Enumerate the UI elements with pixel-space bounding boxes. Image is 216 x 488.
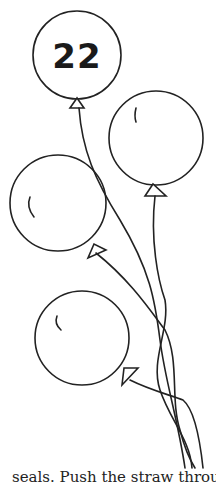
balloon-left	[10, 155, 106, 251]
balloon-string	[96, 253, 195, 468]
balloon-bottom	[35, 291, 129, 385]
balloon-knot	[145, 184, 166, 196]
balloon-highlight	[56, 316, 61, 330]
caption-text: seals. Push the straw through th	[12, 468, 216, 486]
balloon-right	[109, 91, 203, 185]
balloon-highlight	[135, 108, 136, 122]
balloon-highlight	[29, 197, 34, 217]
balloon-number-label: 22	[37, 36, 117, 76]
balloon-knot	[88, 244, 106, 258]
balloon-string	[130, 380, 203, 468]
